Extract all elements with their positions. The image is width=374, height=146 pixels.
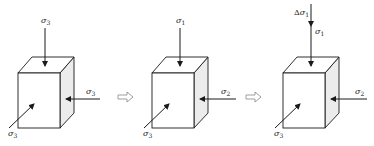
cube-2 <box>144 28 236 128</box>
right-stress-label: σ2 <box>355 88 364 97</box>
top-stress-label: σ3 <box>41 17 50 26</box>
transition-arrow-1 <box>118 92 133 102</box>
front-stress-label: σ3 <box>143 130 152 139</box>
right-stress-label: σ3 <box>86 88 95 97</box>
transition-arrow-2 <box>246 92 261 102</box>
cube-3 <box>275 4 367 128</box>
delta-stress-label: Δσ1 <box>294 9 309 18</box>
stress-diagram <box>0 0 374 146</box>
right-stress-label: σ2 <box>221 88 230 97</box>
top-stress-label: σ1 <box>176 17 185 26</box>
front-stress-label: σ3 <box>274 130 283 139</box>
front-stress-label: σ3 <box>8 130 17 139</box>
top-stress-label: σ1 <box>315 28 324 37</box>
cube-1 <box>9 28 100 128</box>
